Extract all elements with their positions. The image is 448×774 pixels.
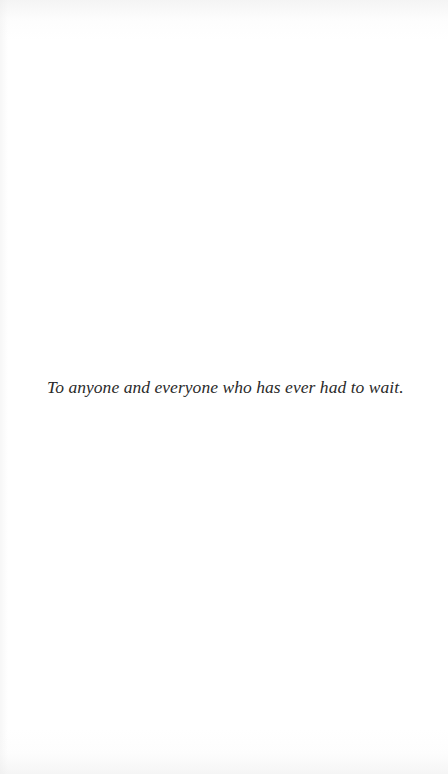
book-page: To anyone and everyone who has ever had … bbox=[0, 0, 448, 774]
dedication-text: To anyone and everyone who has ever had … bbox=[47, 377, 404, 398]
